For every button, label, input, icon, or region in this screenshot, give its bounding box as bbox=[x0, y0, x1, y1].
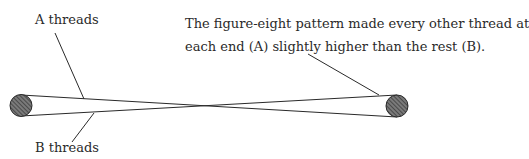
b-leader-line bbox=[72, 113, 94, 142]
a-leader-line bbox=[55, 33, 84, 99]
caption-leader-line bbox=[308, 54, 379, 95]
right-post-icon bbox=[386, 95, 408, 117]
left-post-icon bbox=[10, 95, 32, 117]
